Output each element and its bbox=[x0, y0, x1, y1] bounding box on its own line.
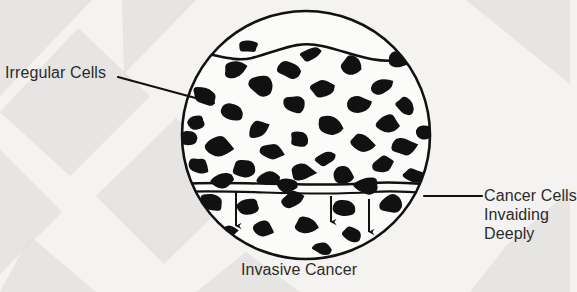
tissue-field bbox=[176, 11, 438, 259]
cancer-cell bbox=[233, 160, 255, 177]
label-cancer-cells-line3: Deeply bbox=[484, 224, 577, 243]
invading-cancer-cell bbox=[368, 244, 386, 256]
label-irregular-cells: Irregular Cells bbox=[5, 63, 106, 82]
caption-invasive-cancer: Invasive Cancer bbox=[0, 260, 570, 279]
label-cancer-cells-invading-deeply: Cancer Cells Invaiding Deeply bbox=[484, 186, 577, 243]
caption-invasive-cancer-text: Invasive Cancer bbox=[241, 261, 357, 278]
invading-cancer-cell bbox=[393, 220, 416, 234]
label-cancer-cells-line1: Cancer Cells bbox=[484, 186, 577, 205]
label-cancer-cells-line2: Invaiding bbox=[484, 205, 577, 224]
cancer-cell bbox=[239, 40, 258, 51]
label-irregular-cells-text: Irregular Cells bbox=[5, 64, 106, 81]
